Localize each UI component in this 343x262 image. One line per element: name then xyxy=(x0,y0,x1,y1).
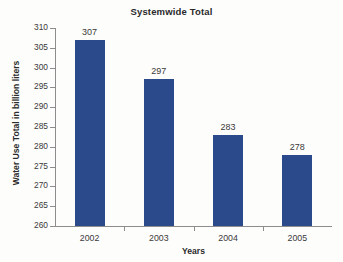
bar[interactable] xyxy=(144,79,174,226)
y-axis-tick-label: 285 xyxy=(34,121,48,131)
bar[interactable] xyxy=(282,155,312,226)
y-axis-tick-label: 295 xyxy=(34,81,48,91)
x-axis-category-label: 2002 xyxy=(65,233,115,243)
bar-value-label: 278 xyxy=(277,142,317,152)
bar-value-label: 297 xyxy=(139,66,179,76)
y-axis-tick xyxy=(50,206,56,207)
y-axis-tick xyxy=(50,186,56,187)
plot-area: 310305300295290285280275270265260 307297… xyxy=(55,28,332,226)
y-axis-tick xyxy=(50,107,56,108)
x-axis-category-label: 2004 xyxy=(203,233,253,243)
y-axis-tick xyxy=(50,127,56,128)
y-axis-tick-label: 305 xyxy=(34,42,48,52)
y-axis-tick-label: 310 xyxy=(34,22,48,32)
y-axis-tick xyxy=(50,226,56,227)
bar-value-label: 307 xyxy=(70,27,110,37)
x-axis-tick xyxy=(263,226,264,231)
x-axis-category-label: 2005 xyxy=(272,233,322,243)
y-axis-tick-label: 265 xyxy=(34,200,48,210)
y-axis-tick xyxy=(50,68,56,69)
y-axis-tick xyxy=(50,87,56,88)
x-axis-tick xyxy=(124,226,125,231)
y-axis-tick xyxy=(50,167,56,168)
y-axis-tick xyxy=(50,48,56,49)
y-axis-tick-label: 280 xyxy=(34,141,48,151)
bar-chart-figure: Systemwide Total Water Use Total in bill… xyxy=(0,0,343,262)
y-axis-tick-label: 260 xyxy=(34,220,48,230)
y-axis-tick-label: 290 xyxy=(34,101,48,111)
x-axis-title: Years xyxy=(55,246,332,256)
x-axis-category-label: 2003 xyxy=(134,233,184,243)
bar[interactable] xyxy=(75,40,105,226)
y-axis-tick xyxy=(50,147,56,148)
y-axis-tick xyxy=(50,28,56,29)
bar-value-label: 283 xyxy=(208,122,248,132)
y-axis-tick-label: 300 xyxy=(34,62,48,72)
y-axis-tick-label: 275 xyxy=(34,161,48,171)
y-axis-tick-label: 270 xyxy=(34,180,48,190)
y-axis-title: Water Use Total in billion liters xyxy=(11,23,21,223)
x-axis-tick xyxy=(194,226,195,231)
bar[interactable] xyxy=(213,135,243,226)
chart-title: Systemwide Total xyxy=(0,6,343,17)
